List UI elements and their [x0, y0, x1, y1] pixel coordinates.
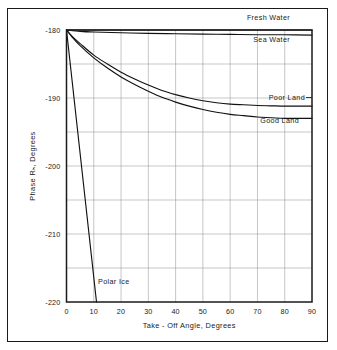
y-tick-label: -220	[45, 298, 60, 307]
series-label-poor-land: Poor Land	[269, 93, 305, 102]
x-tick-label: 60	[226, 307, 234, 316]
x-tick-label: 70	[253, 307, 261, 316]
x-axis-tick-labels: 0102030405060708090	[64, 307, 316, 316]
y-tick-label: -210	[45, 230, 60, 239]
x-tick-label: 20	[117, 307, 125, 316]
chart-figure: 0102030405060708090 -220-210-200-190-180…	[0, 0, 337, 350]
x-tick-label: 90	[308, 307, 316, 316]
y-tick-label: -180	[45, 26, 60, 35]
x-axis-title: Take - Off Angle, Degrees	[143, 321, 236, 330]
series-label-polar-ice: Polar Ice	[98, 277, 130, 286]
series-labels-group: Fresh WaterSea WaterPoor LandGood LandPo…	[98, 13, 305, 286]
x-tick-label: 10	[90, 307, 98, 316]
x-tick-label: 40	[171, 307, 179, 316]
y-axis-title: Phase Rₕ, Degrees	[28, 131, 37, 200]
y-axis-tick-labels: -220-210-200-190-180	[45, 26, 60, 307]
x-tick-label: 50	[199, 307, 207, 316]
y-tick-label: -200	[45, 162, 60, 171]
chart-plot-svg: 0102030405060708090 -220-210-200-190-180…	[0, 0, 337, 350]
series-label-good-land: Good Land	[260, 116, 299, 125]
x-tick-label: 30	[144, 307, 152, 316]
y-tick-label: -190	[45, 94, 60, 103]
x-tick-label: 80	[281, 307, 289, 316]
series-label-sea-water: Sea Water	[253, 35, 290, 44]
gridlines-group	[67, 30, 313, 302]
x-tick-label: 0	[64, 307, 68, 316]
series-label-fresh-water: Fresh Water	[247, 13, 290, 22]
